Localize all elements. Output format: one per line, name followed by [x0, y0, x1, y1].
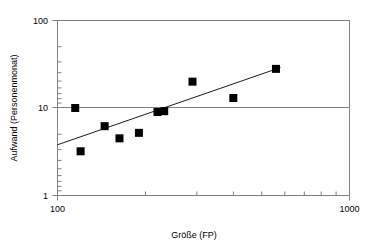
chart-svg: 100 10 1 100 1000 Größe (FP) Aufwand (Pe… — [0, 0, 376, 247]
y-tick-label-100: 100 — [33, 16, 48, 26]
data-point — [229, 94, 237, 102]
data-point — [160, 107, 168, 115]
data-point — [115, 134, 123, 142]
data-point — [135, 129, 143, 137]
y-tick-label-10: 10 — [38, 103, 48, 113]
data-point — [272, 65, 280, 73]
data-point — [71, 104, 79, 112]
chart-figure: 100 10 1 100 1000 Größe (FP) Aufwand (Pe… — [0, 0, 376, 247]
x-axis-title: Größe (FP) — [171, 230, 217, 240]
data-point — [189, 78, 197, 86]
y-tick-label-1: 1 — [43, 191, 48, 201]
x-tick-label-100: 100 — [50, 204, 65, 214]
data-point — [101, 122, 109, 130]
y-axis-title: Aufwand (Personenmonat) — [9, 54, 19, 161]
data-point — [77, 147, 85, 155]
x-tick-label-1000: 1000 — [339, 204, 359, 214]
